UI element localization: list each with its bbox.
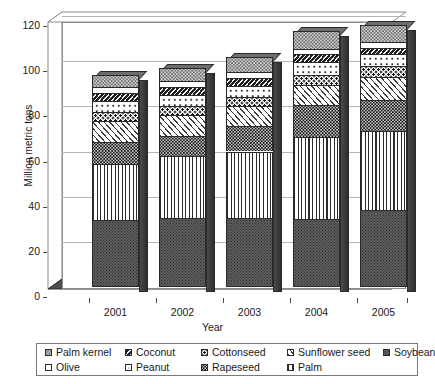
- legend-row: OlivePeanutRapeseedPalm: [37, 361, 419, 375]
- x-axis-tick-mark: [223, 298, 224, 303]
- bar-segment-coconut: [159, 87, 206, 95]
- legend-item-olive[interactable]: Olive: [39, 361, 80, 373]
- bar-segment-cottonseed: [360, 66, 407, 77]
- bar-segment-peanut: [159, 95, 206, 106]
- bar-segment-cottonseed: [293, 75, 340, 85]
- bar-segment-palm: [226, 152, 273, 219]
- x-axis-tick-mark: [156, 298, 157, 303]
- y-axis-tick-label: 120: [14, 19, 40, 31]
- bar-segment-peanut: [360, 54, 407, 65]
- legend-item-palm-kernel[interactable]: Palm kernel: [39, 346, 111, 358]
- plot-area: [62, 22, 414, 297]
- x-axis-tick-mark: [290, 298, 291, 303]
- y-axis-tick-label: 20: [14, 245, 40, 257]
- bar-segment-palm: [92, 164, 139, 220]
- legend-swatch-icon: [45, 349, 52, 356]
- y-axis-tick-label: 40: [14, 200, 40, 212]
- y-axis-tick-label: 60: [14, 155, 40, 167]
- legend-swatch-icon: [125, 364, 132, 371]
- y-axis-tick-mark: [43, 297, 47, 298]
- legend-swatch-icon: [201, 364, 208, 371]
- legend-item-palm[interactable]: Palm: [281, 361, 322, 373]
- bar-side-face: [206, 73, 215, 292]
- bar-segment-peanut: [293, 62, 340, 74]
- bar-segment-cottonseed: [159, 106, 206, 115]
- bar-segment-sunflower-seed: [226, 106, 273, 125]
- legend-item-label: Palm kernel: [56, 346, 111, 358]
- bar-segment-rapeseed: [159, 136, 206, 156]
- legend-item-cottonseed[interactable]: Cottonseed: [195, 346, 266, 358]
- bar-segment-palm: [159, 156, 206, 218]
- chart-legend: Palm kernelCoconutCottonseedSunflower se…: [36, 343, 418, 376]
- bar-segment-coconut: [293, 54, 340, 62]
- bar-segment-palm-kernel: [159, 68, 206, 82]
- legend-item-sunflower-seed[interactable]: Sunflower seed: [281, 346, 370, 358]
- bar-segment-cottonseed: [92, 112, 139, 121]
- bar-segment-peanut: [226, 86, 273, 97]
- bar-segment-palm-kernel: [226, 57, 273, 73]
- bar-segment-rapeseed: [360, 100, 407, 132]
- legend-row: Palm kernelCoconutCottonseedSunflower se…: [37, 346, 419, 360]
- x-axis-tick-label: 2001: [86, 306, 146, 318]
- legend-swatch-icon: [287, 364, 294, 371]
- bar-segment-soybean: [293, 219, 340, 287]
- legend-item-label: Peanut: [136, 361, 169, 373]
- legend-swatch-icon: [383, 349, 390, 356]
- legend-item-label: Soybean: [394, 346, 435, 358]
- bar-segment-soybean: [92, 220, 139, 287]
- bar-side-face: [273, 62, 282, 292]
- bar-segment-palm-kernel: [92, 75, 139, 87]
- x-axis-tick-mark: [407, 298, 408, 303]
- bar-segment-palm: [360, 131, 407, 210]
- legend-item-label: Palm: [298, 361, 322, 373]
- x-axis-tick-label: 2004: [287, 306, 347, 318]
- bar-segment-sunflower-seed: [360, 77, 407, 100]
- bar-segment-cottonseed: [226, 97, 273, 106]
- x-axis-tick-mark: [357, 298, 358, 303]
- bar-segment-coconut: [360, 48, 407, 55]
- x-axis-tick-mark: [89, 298, 90, 303]
- legend-swatch-icon: [45, 364, 52, 371]
- legend-swatch-icon: [125, 349, 132, 356]
- x-axis-tick-label: 2003: [220, 306, 280, 318]
- bar-side-face: [139, 80, 148, 292]
- bar-segment-coconut: [92, 93, 139, 101]
- y-axis-tick-label: 80: [14, 109, 40, 121]
- bar-segment-sunflower-seed: [159, 115, 206, 135]
- bar-segment-rapeseed: [293, 105, 340, 137]
- y-axis-tick-label: 100: [14, 64, 40, 76]
- legend-item-label: Rapeseed: [212, 361, 260, 373]
- bar-segment-soybean: [226, 218, 273, 287]
- bar-segment-palm-kernel: [360, 25, 407, 42]
- legend-item-label: Sunflower seed: [298, 346, 370, 358]
- bar-segment-sunflower-seed: [293, 85, 340, 105]
- legend-swatch-icon: [201, 349, 208, 356]
- gridline: [62, 16, 406, 17]
- bar-segment-rapeseed: [226, 126, 273, 152]
- bar-segment-soybean: [159, 218, 206, 287]
- bar-side-face: [340, 36, 349, 292]
- bar-segment-soybean: [360, 210, 407, 287]
- bar-side-face: [407, 30, 416, 292]
- legend-item-label: Coconut: [136, 346, 175, 358]
- legend-item-coconut[interactable]: Coconut: [119, 346, 175, 358]
- legend-item-peanut[interactable]: Peanut: [119, 361, 169, 373]
- bar-segment-palm-kernel: [293, 31, 340, 49]
- bar-segment-peanut: [92, 101, 139, 112]
- x-axis-tick-label: 2005: [354, 306, 414, 318]
- legend-item-label: Cottonseed: [212, 346, 266, 358]
- y-axis-tick-label: 0: [14, 290, 40, 302]
- legend-item-label: Olive: [56, 361, 80, 373]
- bar-segment-rapeseed: [92, 142, 139, 163]
- bar-segment-coconut: [226, 78, 273, 86]
- bar-segment-sunflower-seed: [92, 121, 139, 142]
- x-axis-label: Year: [0, 321, 425, 333]
- x-axis-tick-label: 2002: [153, 306, 213, 318]
- legend-item-soybean[interactable]: Soybean: [377, 346, 435, 358]
- bar-segment-palm: [293, 137, 340, 219]
- legend-swatch-icon: [287, 349, 294, 356]
- legend-item-rapeseed[interactable]: Rapeseed: [195, 361, 260, 373]
